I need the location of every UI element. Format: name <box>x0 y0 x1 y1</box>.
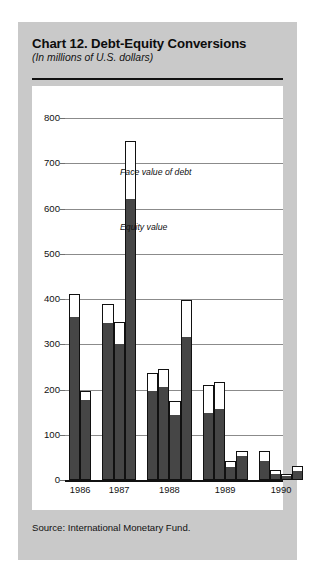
gridline-300 <box>65 344 283 345</box>
bar-equity-segment <box>70 317 79 479</box>
bar-1988-4 <box>181 300 192 480</box>
bar-equity-segment <box>215 409 224 479</box>
y-axis-tickmark-200 <box>60 390 65 391</box>
chart-header: Chart 12. Debt-Equity Conversions (In mi… <box>32 36 283 64</box>
y-axis-tick-100: 100 <box>32 429 60 440</box>
bar-equity-segment <box>182 337 191 479</box>
y-axis-tickmark-800 <box>60 118 65 119</box>
bar-equity-segment <box>237 456 246 479</box>
bar-equity-segment <box>126 199 135 479</box>
bar-1989-1 <box>203 385 214 480</box>
bar-equity-segment <box>115 344 124 479</box>
x-axis-line <box>65 480 283 482</box>
bar-1988-2 <box>158 369 169 480</box>
bar-equity-segment <box>282 476 291 479</box>
y-axis-tickmark-600 <box>60 209 65 210</box>
source-note: Source: International Monetary Fund. <box>32 522 190 533</box>
page-title: Chart 12. Debt-Equity Conversions <box>32 36 283 51</box>
y-axis-tickmark-700 <box>60 163 65 164</box>
y-axis-tickmark-500 <box>60 254 65 255</box>
bar-1989-3 <box>225 461 236 480</box>
gridline-500 <box>65 254 283 255</box>
bar-equity-segment <box>204 413 213 479</box>
bar-1986-2 <box>80 391 91 480</box>
bar-1986-1 <box>69 294 80 480</box>
y-axis-tick-200: 200 <box>32 384 60 395</box>
y-axis-tick-500: 500 <box>32 248 60 259</box>
bar-1989-4 <box>236 451 247 480</box>
bar-equity-segment <box>81 400 90 479</box>
y-axis-tickmark-400 <box>60 299 65 300</box>
plot-panel: 0100200300400500600700800198619871988198… <box>32 86 283 510</box>
y-axis-tick-300: 300 <box>32 338 60 349</box>
chart-subtitle: (In millions of U.S. dollars) <box>32 52 283 64</box>
annotation-equity-value: Equity value <box>120 222 167 232</box>
annotation-face-value: Face value of debt <box>120 167 191 177</box>
gridline-800 <box>65 118 283 119</box>
bar-1987-1 <box>102 304 113 480</box>
bar-1989-2 <box>214 382 225 480</box>
bar-1990-3 <box>281 474 292 480</box>
bar-equity-segment <box>159 387 168 479</box>
y-axis-tickmark-100 <box>60 435 65 436</box>
bar-1990-4 <box>292 466 303 480</box>
bar-1990-2 <box>270 470 281 480</box>
plot-area: 0100200300400500600700800198619871988198… <box>32 86 283 510</box>
bar-equity-segment <box>271 474 280 479</box>
y-axis-tick-400: 400 <box>32 293 60 304</box>
y-axis-tick-600: 600 <box>32 203 60 214</box>
gridline-600 <box>65 209 283 210</box>
y-axis-tick-700: 700 <box>32 157 60 168</box>
y-axis-tickmark-300 <box>60 344 65 345</box>
title-divider <box>32 78 283 80</box>
bar-1988-3 <box>169 401 180 480</box>
bar-equity-segment <box>226 467 235 479</box>
bar-1988-1 <box>147 373 158 480</box>
bar-1990-1 <box>259 451 270 480</box>
bar-equity-segment <box>170 415 179 479</box>
bar-equity-segment <box>148 391 157 479</box>
bar-1987-2 <box>114 322 125 480</box>
bar-1987-3 <box>125 141 136 480</box>
gridline-400 <box>65 299 283 300</box>
bar-equity-segment <box>293 471 302 479</box>
gridline-200 <box>65 390 283 391</box>
bar-equity-segment <box>260 461 269 479</box>
y-axis-tick-0: 0 <box>32 474 60 485</box>
bar-equity-segment <box>103 323 112 479</box>
x-axis-label-1990: 1990 <box>249 485 314 495</box>
y-axis-tick-800: 800 <box>32 112 60 123</box>
chart-figure: Chart 12. Debt-Equity Conversions (In mi… <box>18 22 297 560</box>
gridline-700 <box>65 163 283 164</box>
